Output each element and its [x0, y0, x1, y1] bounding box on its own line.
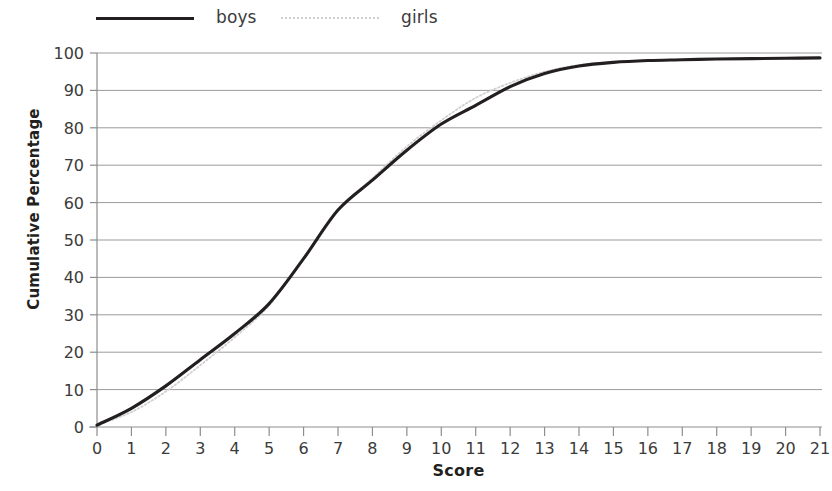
x-tick-label: 4	[230, 439, 240, 458]
x-tick-label: 9	[402, 439, 412, 458]
y-tick-label: 60	[64, 194, 84, 213]
x-tick-label: 17	[672, 439, 692, 458]
y-axis-title: Cumulative Percentage	[25, 89, 43, 329]
plot-area: 0102030405060708090100 01234567891011121…	[0, 0, 832, 491]
x-tick-label: 8	[367, 439, 377, 458]
x-tick-label: 3	[195, 439, 205, 458]
y-tick-label: 90	[64, 81, 84, 100]
x-tick-label: 13	[534, 439, 554, 458]
y-tick-label: 0	[74, 418, 84, 437]
x-axis: 0123456789101112131415161718192021	[89, 427, 830, 458]
x-tick-label: 5	[264, 439, 274, 458]
x-tick-label: 1	[126, 439, 136, 458]
y-axis-ticks: 0102030405060708090100	[53, 44, 97, 437]
series-line-boys	[97, 58, 820, 425]
x-tick-label: 6	[298, 439, 308, 458]
y-tick-label: 100	[53, 44, 84, 63]
x-tick-label: 2	[161, 439, 171, 458]
x-axis-title: Score	[97, 461, 820, 480]
y-tick-label: 50	[64, 231, 84, 250]
gridlines	[97, 53, 822, 427]
y-tick-label: 70	[64, 156, 84, 175]
x-tick-label: 10	[431, 439, 451, 458]
x-tick-label: 19	[741, 439, 761, 458]
chart-figure: boys girls 0102030405060708090100 012345…	[0, 0, 832, 491]
x-tick-label: 15	[603, 439, 623, 458]
x-tick-label: 0	[92, 439, 102, 458]
x-tick-label: 18	[707, 439, 727, 458]
x-tick-label: 7	[333, 439, 343, 458]
x-tick-label: 16	[638, 439, 658, 458]
y-tick-label: 10	[64, 381, 84, 400]
x-tick-label: 12	[500, 439, 520, 458]
y-tick-label: 30	[64, 306, 84, 325]
x-tick-label: 14	[569, 439, 589, 458]
x-tick-label: 20	[775, 439, 795, 458]
x-tick-label: 21	[810, 439, 830, 458]
y-tick-label: 20	[64, 343, 84, 362]
y-tick-label: 40	[64, 268, 84, 287]
y-tick-label: 80	[64, 119, 84, 138]
x-tick-label: 11	[466, 439, 486, 458]
data-series	[97, 58, 820, 425]
chart-svg: 0102030405060708090100 01234567891011121…	[0, 0, 832, 491]
